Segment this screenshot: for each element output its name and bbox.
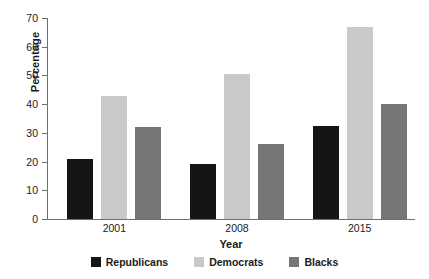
y-axis-tick xyxy=(42,162,47,163)
bar xyxy=(224,74,250,219)
legend-swatch xyxy=(91,257,101,267)
y-axis-tick xyxy=(42,104,47,105)
plot-area: 010203040506070 200120082015 xyxy=(47,18,415,220)
y-axis-tick-label: 20 xyxy=(26,156,38,168)
bar xyxy=(381,104,407,219)
bar-chart-figure: Percentage 010203040506070 200120082015 … xyxy=(0,0,429,279)
legend-label: Democrats xyxy=(209,256,263,268)
legend-item: Republicans xyxy=(91,256,168,268)
y-axis-tick xyxy=(42,18,47,19)
y-axis-tick-label: 40 xyxy=(26,98,38,110)
y-axis-tick xyxy=(42,47,47,48)
chart-legend: RepublicansDemocratsBlacks xyxy=(0,256,429,268)
x-axis-line xyxy=(47,219,415,220)
legend-swatch xyxy=(194,257,204,267)
y-axis-tick xyxy=(42,75,47,76)
y-axis-tick xyxy=(42,190,47,191)
x-axis-tick-label: 2001 xyxy=(67,222,161,234)
bar-group xyxy=(190,18,284,219)
x-axis-tick-label: 2015 xyxy=(313,222,407,234)
y-axis-tick xyxy=(42,219,47,220)
bar-group xyxy=(313,18,407,219)
y-axis-tick xyxy=(42,133,47,134)
x-axis-tick-label: 2008 xyxy=(190,222,284,234)
legend-label: Blacks xyxy=(304,256,338,268)
legend-item: Democrats xyxy=(194,256,263,268)
y-axis-tick-label: 0 xyxy=(32,213,38,225)
y-axis-tick-label: 70 xyxy=(26,12,38,24)
bar xyxy=(67,159,93,219)
legend-label: Republicans xyxy=(106,256,168,268)
bar xyxy=(190,164,216,219)
bar xyxy=(101,96,127,219)
bar xyxy=(313,126,339,219)
bar xyxy=(347,27,373,219)
legend-item: Blacks xyxy=(289,256,338,268)
x-axis-title: Year xyxy=(47,238,415,250)
y-axis-tick-label: 30 xyxy=(26,127,38,139)
bar-group xyxy=(67,18,161,219)
bar xyxy=(258,144,284,219)
y-axis-tick-label: 60 xyxy=(26,41,38,53)
y-axis-tick-label: 10 xyxy=(26,184,38,196)
bar xyxy=(135,127,161,219)
legend-swatch xyxy=(289,257,299,267)
y-axis-line xyxy=(47,18,48,220)
y-axis-tick-label: 50 xyxy=(26,69,38,81)
